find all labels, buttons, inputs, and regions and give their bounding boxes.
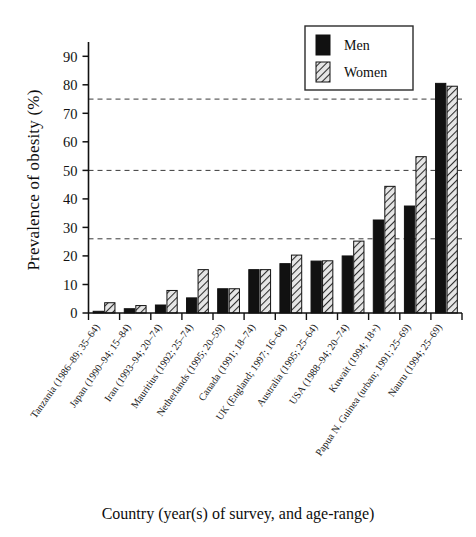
legend-swatch-women xyxy=(316,62,330,82)
bar-men xyxy=(373,220,383,313)
y-tick-label: 80 xyxy=(63,77,78,93)
bar-men xyxy=(404,206,414,313)
bar-men xyxy=(249,270,259,313)
bar-men xyxy=(342,256,352,313)
bar-women xyxy=(323,261,333,313)
legend: Men Women xyxy=(305,26,413,90)
bar-men xyxy=(311,261,321,313)
bar-men xyxy=(218,289,228,313)
bar-men xyxy=(436,83,446,313)
bar-women xyxy=(354,241,364,313)
bar-women xyxy=(198,270,208,313)
y-tick-label: 10 xyxy=(63,277,78,293)
y-tick-label: 0 xyxy=(70,305,77,321)
y-tick-label: 90 xyxy=(63,49,78,65)
y-tick-label: 20 xyxy=(63,248,78,264)
bar-women xyxy=(416,157,426,313)
bar-women xyxy=(229,289,239,313)
y-tick-label: 50 xyxy=(63,163,78,179)
bar-women xyxy=(385,186,395,313)
y-tick-label: 30 xyxy=(63,220,78,236)
x-category-label: Iran (1993–94; 20–74) xyxy=(102,322,165,404)
y-tick-label: 60 xyxy=(63,134,78,150)
plot-area: 0102030405060708090 Tanzania (1986–89; 3… xyxy=(0,0,476,510)
y-axis-title: Prevalence of obesity (%) xyxy=(24,50,44,310)
y-tick-label: 70 xyxy=(63,106,78,122)
x-axis-ticks xyxy=(89,313,463,320)
legend-swatch-men xyxy=(316,35,330,55)
bar-women xyxy=(136,306,146,313)
bar-women xyxy=(105,303,115,313)
x-category-label: Nauru (1994; 25–69) xyxy=(386,322,445,399)
bar-women xyxy=(291,255,301,313)
bar-men xyxy=(280,264,290,313)
y-axis-ticks: 0102030405060708090 xyxy=(63,49,89,322)
bar-men xyxy=(155,305,165,313)
y-tick-label: 40 xyxy=(63,191,78,207)
bar-group xyxy=(93,83,457,313)
obesity-prevalence-chart: Prevalence of obesity (%) Country (year(… xyxy=(0,0,476,537)
bar-men xyxy=(187,298,197,313)
x-category-label: Canada (1991; 18–74) xyxy=(196,322,258,404)
legend-label-women: Women xyxy=(344,65,387,80)
bar-women xyxy=(167,290,177,313)
legend-label-men: Men xyxy=(344,38,370,53)
bar-women xyxy=(260,270,270,313)
x-axis-category-labels: Tanzania (1986–89; 35–64)Japan (1990–94;… xyxy=(28,322,445,459)
bar-women xyxy=(447,86,457,313)
x-axis-title: Country (year(s) of survey, and age-rang… xyxy=(0,505,476,523)
